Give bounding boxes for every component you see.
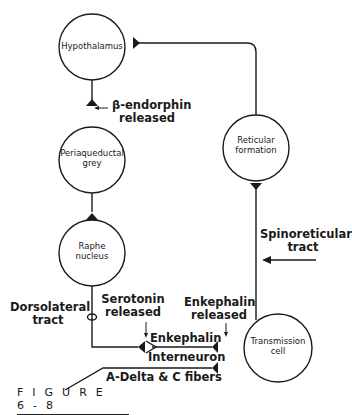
dorsolateral-label-line2: tract (10, 314, 86, 327)
raphe-label-line2: nucleus (59, 252, 125, 262)
hypothalamus-label: Hypothalamus (59, 42, 125, 52)
enkephalin-interneuron-label-bottom: Interneuron (148, 351, 218, 364)
raphe-synapse-terminal (86, 213, 98, 220)
beta-endorphin-label: β-endorphin released (112, 99, 182, 125)
transmission-label: Transmission cell (244, 337, 312, 357)
reticular-label: Reticular formation (223, 136, 289, 156)
enkephalin-released-arrowhead (224, 332, 228, 337)
pag-synapse-terminal (86, 99, 98, 106)
serotonin-arrowhead (144, 333, 148, 338)
spinoreticular-label: Spinoreticular tract (260, 228, 346, 254)
raphe-label: Raphe nucleus (59, 242, 125, 262)
periaqueductal-label: Periaqueductal grey (59, 149, 125, 169)
enkephalin-released-label-line2: released (184, 309, 254, 322)
periaqueductal-label-line2: grey (59, 159, 125, 169)
interneuron-input-terminal (138, 341, 145, 353)
reticular-synapse-terminal (250, 183, 262, 190)
spinoreticular-arrowhead (262, 256, 271, 264)
fibers-label: A-Delta & C fibers (106, 371, 214, 384)
serotonin-label: Serotonin released (101, 293, 165, 319)
reticular-label-line2: formation (223, 146, 289, 156)
enkephalin-interneuron-label-top: Enkephalin (150, 332, 216, 345)
figure-caption: FIGURE 6-8 (17, 386, 129, 415)
beta-endorphin-arrowhead (94, 106, 99, 110)
serotonin-label-line2: released (101, 306, 165, 319)
hypothalamus-synapse-terminal (133, 37, 140, 49)
enkephalin-released-label: Enkephalin released (184, 296, 254, 322)
beta-endorphin-label-line2: released (112, 112, 182, 125)
dorsolateral-label: Dorsolateral tract (10, 301, 86, 327)
spinoreticular-label-line2: tract (260, 241, 346, 254)
transmission-label-line2: cell (244, 347, 312, 357)
